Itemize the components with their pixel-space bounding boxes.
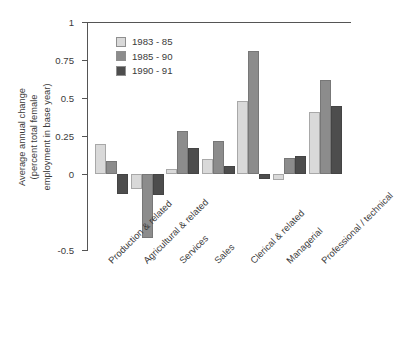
legend-swatch-icon-1983-85 [116,37,126,47]
bar-4-1 [248,51,259,174]
legend-swatch-icon-1985-90 [116,51,126,61]
bar-4-2 [259,174,270,179]
bar-6-2 [331,106,342,174]
y-tick-3: 0.25 [82,136,88,137]
y-tick-1: 0.75 [82,60,88,61]
bar-5-2 [295,156,306,174]
legend-label-1990-91: 1990 - 91 [132,65,173,76]
bar-5-1 [284,158,295,174]
bar-3-2 [224,166,235,174]
y-tick-5: -0.5 [82,250,88,251]
legend-item-1983-85: 1983 - 85 [116,36,173,47]
bar-6-1 [320,80,331,174]
y-tick-label-3: 0.25 [55,131,74,142]
zero-baseline [88,22,351,23]
y-tick-label-2: 0.5 [61,93,74,104]
y-axis-title-line-3: employment in base year) [41,84,53,191]
y-tick-label-1: 0.75 [55,55,74,66]
y-tick-4: 0 [82,174,88,175]
bar-5-0 [273,174,284,180]
bar-3-1 [213,141,224,174]
y-axis-title: Average annual change (percent total fem… [14,22,56,252]
legend-item-1990-91: 1990 - 91 [116,65,173,76]
bar-1-0 [131,174,142,189]
legend-label-1983-85: 1983 - 85 [132,36,173,47]
bar-2-1 [177,131,188,174]
y-tick-label-4: 0 [69,169,74,180]
legend-swatch-icon-1990-91 [116,66,126,76]
y-axis-title-line-2: (percent total female [29,84,41,191]
legend: 1983 - 85 1985 - 90 1990 - 91 [116,36,173,76]
bar-6-0 [309,112,320,174]
bar-0-2 [117,174,128,194]
y-tick-0: 1 [82,22,88,23]
bar-0-0 [95,144,106,174]
bar-1-2 [153,174,164,195]
bar-2-2 [188,148,199,174]
legend-item-1985-90: 1985 - 90 [116,51,173,62]
bar-2-0 [166,169,177,174]
y-tick-label-0: 1 [69,17,74,28]
x-axis-labels: Production & relatedAgricultural & relat… [0,252,360,361]
bar-3-0 [202,159,213,174]
bar-0-1 [106,161,117,174]
y-tick-2: 0.5 [82,98,88,99]
y-axis-title-line-1: Average annual change [16,84,28,191]
bar-4-0 [237,101,248,174]
legend-label-1985-90: 1985 - 90 [132,51,173,62]
